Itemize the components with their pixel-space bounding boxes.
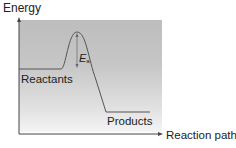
ea-subscript: a: [86, 58, 89, 64]
activation-energy-label: Ea: [79, 53, 90, 64]
arrow-down-icon: [76, 64, 79, 68]
x-axis-arrow-icon: [158, 132, 163, 136]
y-axis-arrow-icon: [17, 17, 21, 22]
reactants-label: Reactants: [21, 74, 73, 86]
arrow-up-icon: [76, 33, 79, 37]
y-axis-label: Energy: [3, 2, 41, 14]
products-label: Products: [107, 116, 152, 128]
x-axis-label: Reaction path: [166, 130, 236, 142]
energy-curve: [19, 32, 150, 112]
